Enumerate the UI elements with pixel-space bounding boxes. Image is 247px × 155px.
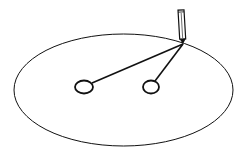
pencil-icon [178, 10, 186, 44]
left-focus-pin [75, 81, 93, 94]
string-segment [92, 44, 183, 83]
string-loop [92, 44, 183, 83]
right-focus-pin [143, 81, 159, 94]
diagram-canvas [0, 0, 247, 155]
focus-pins [75, 81, 159, 94]
ellipse-construction-diagram [0, 0, 247, 155]
ellipse-outline [14, 34, 233, 146]
